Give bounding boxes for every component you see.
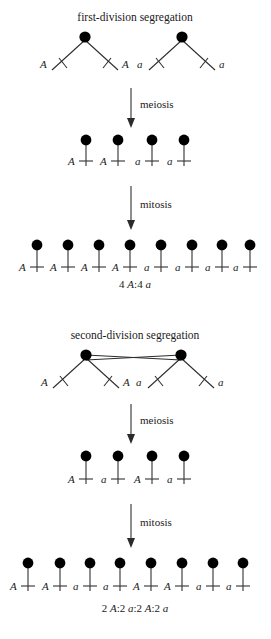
spore-label: a [101,473,107,485]
ascospore-label: A [9,580,17,592]
spore: A [99,135,125,167]
panel-second-division: second-division segregation A A [9,329,250,614]
spore-label: a [167,155,173,167]
spore-label: A [133,473,141,485]
allele-label-tetrad-4: a [219,58,225,70]
ascospore-label: A [163,580,171,592]
arrow-meiosis-second-division: meiosis [127,404,174,444]
panel-title-first-division: first-division segregation [77,11,193,24]
ascospore-label: a [205,261,211,273]
arrow-label-meiosis: meiosis [140,98,174,110]
ascospore: a [73,558,97,592]
centromere-dot [175,349,186,360]
arrow-mitosis-first-division: mitosis [127,186,172,230]
spore: A [67,135,93,167]
ascospore-label: A [18,261,26,273]
allele-label-tetrad-2: A [121,58,129,70]
bivalent-right-second-division: a a [136,349,224,388]
spore-label: A [67,155,75,167]
centromere-dot [79,31,90,42]
ascospore-label: a [233,261,239,273]
meiosis-products-second-division: A a A a [67,451,191,485]
spore-label: a [135,155,141,167]
panel-first-division: first-division segregation A A a a [18,11,257,290]
panel-title-second-division: second-division segregation [71,329,200,342]
spore: A [133,451,159,485]
ascospore-label: a [144,261,150,273]
spore: A [67,451,93,485]
centromere-dot [80,349,91,360]
ascospore: A [80,240,106,273]
allele-label-tetrad-3: a [136,376,142,388]
ascospore: A [132,558,158,592]
spore-label: a [167,473,173,485]
ascospore: A [49,240,75,273]
allele-label-tetrad-4: a [218,376,224,388]
ascospore-label: A [49,261,57,273]
ascospore: a [144,240,168,273]
ascospore: A [9,558,35,592]
bivalent-left-first-division: A A [39,31,129,70]
ascospore-label: a [175,261,181,273]
ascospore: A [18,240,44,273]
ascospore-label: A [132,580,140,592]
mitosis-products-first-division: A A A A [18,240,257,273]
arrow-mitosis-second-division: mitosis [127,504,172,548]
ascospore: a [226,558,250,592]
arrow-label-meiosis: meiosis [140,414,174,426]
crossover-chiasma [86,355,181,360]
ascospore-label: a [196,580,202,592]
allele-label-tetrad-1: A [39,58,47,70]
allele-label-tetrad-2: A [122,376,130,388]
centromere-dot [176,31,187,42]
ascospore: a [196,558,220,592]
ratio-caption-second-division: 2 A:2 a:2 A:2 a [102,602,169,614]
ascospore-label: A [41,580,49,592]
meiosis-products-first-division: A A a a [67,135,191,167]
arrow-meiosis-first-division: meiosis [127,88,174,128]
ascospore: a [103,558,127,592]
ascospore-label: A [80,261,88,273]
allele-label-tetrad-3: a [137,58,143,70]
ascospore: A [111,240,137,273]
ascospore: a [175,240,199,273]
ascospore: a [233,240,257,273]
spore: a [101,451,125,485]
ratio-caption-first-division: 4 A:4 a [119,278,151,290]
ascospore-label: a [226,580,232,592]
ascospore-label: a [73,580,79,592]
mitosis-products-second-division: A A a a [9,558,250,592]
meiosis-segregation-diagram: first-division segregation A A a a [0,0,271,639]
arrow-label-mitosis: mitosis [140,516,172,528]
ascospore: A [41,558,67,592]
spore-label: A [67,473,75,485]
spore: a [167,135,191,167]
arrow-label-mitosis: mitosis [140,198,172,210]
ascospore-label: A [111,261,119,273]
ascospore: A [163,558,189,592]
spore: a [167,451,191,485]
allele-label-tetrad-1: A [40,376,48,388]
ascospore-label: a [103,580,109,592]
bivalent-left-second-division: A A [40,349,130,388]
spore: a [135,135,159,167]
spore-label: A [99,155,107,167]
bivalent-right-first-division: a a [137,31,225,70]
ascospore: a [205,240,229,273]
